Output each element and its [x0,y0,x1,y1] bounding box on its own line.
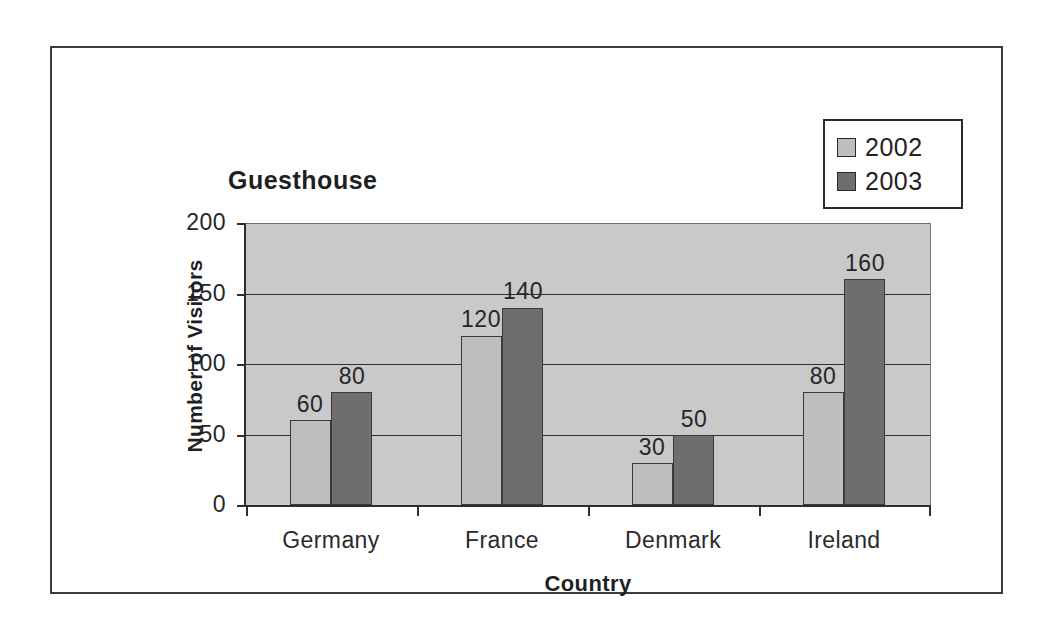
legend-entry-2003[interactable]: 2003 [837,164,951,198]
bar-germany-2002[interactable] [290,420,331,505]
chart-legend: 2002 2003 [823,119,963,209]
xtick-3 [759,505,761,516]
xtick-label-france: France [412,527,592,554]
legend-label-2002: 2002 [865,135,923,160]
xtick-label-ireland: Ireland [754,527,934,554]
bar-label-ireland-2003: 160 [820,250,910,277]
chart-title: Guesthouse [228,166,377,195]
bar-label-denmark-2002: 30 [607,434,697,461]
xtick-2 [588,505,590,516]
bar-ireland-2002[interactable] [803,392,844,505]
bar-label-france-2002: 120 [436,306,526,333]
gridline-150 [246,294,930,295]
bar-ireland-2003[interactable] [844,279,885,505]
xtick-1 [417,505,419,516]
xtick-label-germany: Germany [241,527,421,554]
legend-entry-2002[interactable]: 2002 [837,130,951,164]
ytick-100 [237,364,246,366]
x-axis-title: Country [246,571,930,597]
ytick-0 [237,505,246,507]
plot-top-line [246,223,930,224]
ytick-150 [237,294,246,296]
legend-swatch-2002 [837,138,856,157]
xtick-4 [929,505,931,516]
bar-france-2003[interactable] [502,308,543,505]
legend-swatch-2003 [837,172,856,191]
bar-label-denmark-2003: 50 [649,406,739,433]
legend-label-2003: 2003 [865,169,923,194]
bar-france-2002[interactable] [461,336,502,505]
plot-area: 200 150 100 50 0 Number of Visitors 60 8… [244,223,931,507]
bar-label-france-2003: 140 [478,278,568,305]
ytick-50 [237,435,246,437]
bar-denmark-2002[interactable] [632,463,673,505]
bar-label-germany-2003: 80 [307,363,397,390]
ytick-200 [237,223,246,225]
xtick-label-denmark: Denmark [583,527,763,554]
bar-label-germany-2002: 60 [265,391,355,418]
chart-frame: Guesthouse 2002 2003 200 150 100 50 0 Nu… [50,46,1003,594]
y-axis-title: Number of Visitors [183,215,209,497]
xtick-0 [246,505,248,516]
bar-label-ireland-2002: 80 [778,363,868,390]
